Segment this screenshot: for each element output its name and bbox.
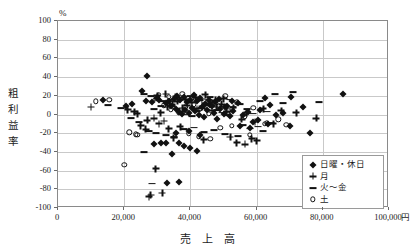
data-point [210, 129, 217, 131]
data-point [177, 97, 184, 104]
data-point [226, 108, 231, 113]
data-point [197, 100, 204, 102]
gridline-horizontal [58, 96, 387, 97]
data-point [179, 104, 186, 111]
data-point [174, 108, 181, 110]
legend-item-4[interactable]: 土 [307, 194, 378, 206]
y-axis-tick-mark [54, 151, 57, 152]
data-point [208, 107, 215, 114]
data-point [150, 141, 157, 148]
data-point [174, 98, 181, 105]
legend-marker-glyph [310, 197, 315, 202]
gridline-horizontal [58, 115, 387, 116]
data-point [155, 96, 162, 103]
legend-item-1[interactable]: 日曜・休日 [307, 159, 378, 171]
data-point [213, 109, 220, 111]
legend-item-2[interactable]: 月 [307, 171, 378, 183]
data-point [216, 103, 221, 108]
y-axis-tick-mark [54, 170, 57, 171]
data-point [202, 91, 209, 98]
data-point [107, 97, 112, 102]
data-point [237, 122, 244, 129]
data-point [208, 136, 213, 141]
chart-legend: 日曜・休日月火～金土 [302, 155, 384, 209]
data-point [142, 126, 149, 133]
y-axis-tick-label: -80 [19, 184, 51, 193]
data-point [222, 103, 229, 110]
data-point [198, 103, 205, 110]
data-point [147, 191, 154, 198]
data-point [223, 103, 230, 110]
y-axis-tick-mark [54, 188, 57, 189]
data-point [194, 110, 201, 112]
data-point [260, 105, 267, 112]
data-point [136, 121, 143, 123]
data-point [168, 107, 173, 112]
data-point [213, 101, 218, 106]
data-point [164, 102, 171, 104]
legend-marker-open-circle-icon [307, 194, 319, 205]
data-point [193, 147, 200, 154]
data-point [88, 104, 95, 111]
data-point [137, 122, 144, 129]
data-point [200, 136, 207, 143]
scatter-chart: 粗 利 益 率 % 100806040200-20-40-60-80-100 0… [0, 0, 415, 252]
legend-item-label: 火～金 [319, 182, 347, 193]
data-point [218, 112, 225, 114]
data-point [246, 124, 253, 131]
x-axis-tick-mark [388, 207, 389, 210]
y-axis-tick-mark [54, 132, 57, 133]
y-axis-unit-label: % [59, 8, 67, 18]
data-point [170, 136, 177, 138]
data-point [190, 91, 197, 98]
data-point [207, 102, 214, 109]
x-axis-tick-label: 60,000 [244, 213, 267, 222]
data-point [242, 141, 249, 148]
data-point [172, 105, 179, 112]
data-point [180, 129, 187, 131]
data-point [165, 125, 172, 132]
x-axis-tick-label: 40,000 [178, 213, 201, 222]
x-axis-unit-label: 円 [401, 213, 410, 222]
data-point [144, 117, 151, 124]
data-point [124, 106, 131, 113]
data-point [159, 190, 166, 197]
data-point [202, 101, 209, 108]
data-point [180, 143, 187, 150]
data-point [316, 101, 323, 103]
legend-item-3[interactable]: 火～金 [307, 182, 378, 194]
y-axis-tick-label: -60 [19, 166, 51, 175]
data-point [162, 100, 169, 107]
data-point [208, 103, 215, 110]
data-point [127, 117, 134, 119]
data-point [175, 178, 182, 185]
y-axis-tick-mark [54, 95, 57, 96]
data-point [251, 105, 256, 110]
data-point [162, 134, 169, 136]
data-point [175, 139, 182, 146]
gridline-horizontal [58, 152, 387, 153]
x-axis-tick-label: 80,000 [310, 213, 333, 222]
legend-marker-glyph [309, 161, 316, 168]
y-axis-tick-label: -100 [19, 203, 51, 212]
data-point [182, 96, 189, 103]
data-point [217, 125, 222, 130]
y-axis-tick-label: -40 [19, 147, 51, 156]
data-point [162, 140, 169, 147]
data-point [227, 133, 234, 140]
data-point [235, 100, 242, 107]
data-point [104, 104, 111, 106]
y-axis-tick-label: 20 [19, 91, 51, 100]
data-point [139, 88, 146, 95]
data-point [217, 105, 224, 112]
data-point [99, 97, 106, 104]
data-point [213, 116, 220, 123]
gridline-horizontal [58, 58, 387, 59]
y-axis-tick-label: 100 [19, 16, 51, 25]
data-point [161, 102, 166, 107]
gridline-vertical [190, 21, 191, 206]
gridline-vertical [124, 21, 125, 206]
data-point [149, 183, 156, 185]
legend-item-label: 月 [319, 171, 329, 182]
data-point [194, 105, 201, 112]
